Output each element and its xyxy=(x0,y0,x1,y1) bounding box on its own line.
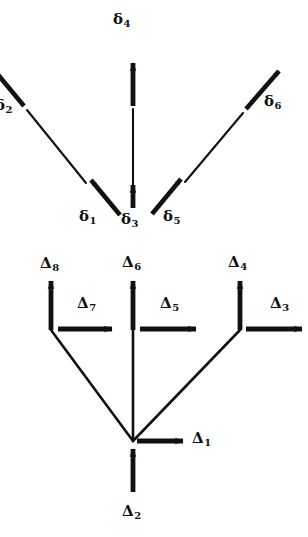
label-delta-4-sub: 4 xyxy=(123,18,130,29)
upper-right-branch-line xyxy=(185,113,243,182)
figure-canvas: δ2 δ4 δ6 δ1 δ3 δ5 Δ8 Δ6 Δ4 Δ7 Δ5 Δ3 Δ1 Δ… xyxy=(0,0,308,537)
label-Delta-2: Δ2 xyxy=(122,504,141,521)
label-Delta-3: Δ3 xyxy=(270,296,289,313)
label-Delta-8-sub: 8 xyxy=(52,262,59,273)
label-delta-6-sub: 6 xyxy=(274,100,281,111)
label-delta-1-sub: 1 xyxy=(89,215,96,226)
label-Delta-3-base: Δ xyxy=(270,294,282,312)
label-delta-4: δ4 xyxy=(113,12,130,29)
label-Delta-8-base: Δ xyxy=(40,254,52,272)
label-delta-5-sub: 5 xyxy=(173,215,180,226)
label-delta-6: δ6 xyxy=(264,94,281,111)
label-delta-5-base: δ xyxy=(163,207,173,225)
label-Delta-6-sub: 6 xyxy=(134,261,141,272)
label-Delta-5-base: Δ xyxy=(160,294,172,312)
label-Delta-1-base: Δ xyxy=(192,429,204,447)
label-delta-4-base: δ xyxy=(113,10,123,28)
label-Delta-5-sub: 5 xyxy=(172,302,179,313)
label-delta-2: δ2 xyxy=(0,98,12,115)
upper-panel-group xyxy=(0,63,279,215)
upper-left-branch-line xyxy=(27,110,86,183)
label-delta-3-sub: 3 xyxy=(131,218,138,229)
lower-left-arm-line xyxy=(51,330,133,441)
label-Delta-6: Δ6 xyxy=(122,255,141,272)
label-Delta-4-base: Δ xyxy=(228,253,240,271)
label-Delta-7-sub: 7 xyxy=(89,302,96,313)
label-Delta-2-sub: 2 xyxy=(134,510,141,521)
label-Delta-4: Δ4 xyxy=(228,255,247,272)
label-delta-2-sub: 2 xyxy=(5,104,12,115)
label-Delta-8: Δ8 xyxy=(40,256,59,273)
label-delta-1: δ1 xyxy=(79,209,96,226)
label-Delta-7-base: Δ xyxy=(77,294,89,312)
label-Delta-7: Δ7 xyxy=(77,296,96,313)
label-Delta-5: Δ5 xyxy=(160,296,179,313)
label-Delta-3-sub: 3 xyxy=(282,302,289,313)
label-delta-3: δ3 xyxy=(121,212,138,229)
label-delta-6-base: δ xyxy=(264,92,274,110)
label-Delta-1-sub: 1 xyxy=(204,437,211,448)
label-Delta-2-base: Δ xyxy=(122,502,134,520)
label-Delta-6-base: Δ xyxy=(122,253,134,271)
label-delta-1-base: δ xyxy=(79,207,89,225)
label-Delta-4-sub: 4 xyxy=(240,261,247,272)
label-Delta-1: Δ1 xyxy=(192,431,211,448)
label-delta-3-base: δ xyxy=(121,210,131,228)
label-delta-5: δ5 xyxy=(163,209,180,226)
lower-right-arm-line xyxy=(133,330,240,441)
